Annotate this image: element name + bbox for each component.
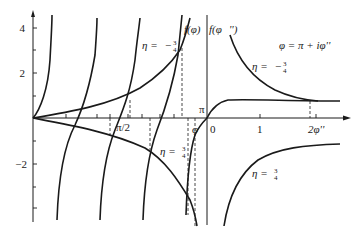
x-tick-label-one: 1 <box>257 123 263 135</box>
eta-neg-right-label: η = − 3 4 <box>252 60 287 75</box>
dashed-guides <box>110 48 310 228</box>
svg-text:−: − <box>275 60 281 72</box>
svg-text:4: 4 <box>173 46 177 54</box>
x-tick-label-phi: φ <box>192 123 198 135</box>
y-axis-arrow-icon <box>31 10 35 17</box>
y-tick-label-neg2: −2 <box>15 158 27 170</box>
svg-text:4: 4 <box>182 152 186 160</box>
x-tick-label-zero: 0 <box>210 123 216 135</box>
f-phi2-label-a: f(φ <box>209 23 222 36</box>
eta-pos-right-label: η = 3 4 <box>252 167 278 182</box>
equation-label: φ = π + iφ'' <box>279 39 331 51</box>
svg-text:η =: η = <box>252 167 268 179</box>
x-tick-label-pi-half: π/2 <box>116 121 130 133</box>
y-tick-label-2: 2 <box>20 67 26 79</box>
eta-pos-left-label: η = 3 4 <box>160 145 186 160</box>
f-phi2-label-b: '') <box>229 23 238 36</box>
svg-text:η =: η = <box>160 145 176 157</box>
f-phi-label: f(φ) <box>184 23 201 36</box>
x-tick-label-2phi2: 2φ'' <box>308 123 325 135</box>
math-figure: 4 2 −2 π/2 φ 0 1 2φ'' π f(φ) f(φ '') φ =… <box>0 0 356 237</box>
y-tick-label-4: 4 <box>20 22 26 34</box>
svg-text:η =: η = <box>142 39 158 51</box>
eta-neg-left-label: η = − 3 4 <box>142 39 177 54</box>
curve-tanh-right <box>207 100 340 118</box>
pi-marker-label: π <box>199 103 205 115</box>
svg-text:−: − <box>165 39 171 51</box>
svg-text:4: 4 <box>274 174 278 182</box>
svg-text:4: 4 <box>283 67 287 75</box>
x-ticks <box>66 114 316 118</box>
svg-text:η =: η = <box>252 60 268 72</box>
curve-eta-pos-right <box>224 144 340 226</box>
x-axis-arrow-icon <box>343 116 351 121</box>
